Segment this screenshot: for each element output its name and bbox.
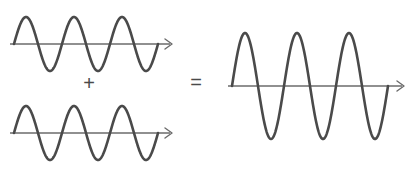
interference-diagram: + = xyxy=(0,0,416,169)
equals-operator-symbol: = xyxy=(190,71,202,93)
plus-operator-symbol: + xyxy=(83,72,95,94)
wave-group-input-wave-top xyxy=(10,17,172,71)
wave-figure-svg: + = xyxy=(0,0,416,169)
wave-group-input-wave-bottom xyxy=(10,106,172,160)
wave-group-resultant-wave xyxy=(228,33,404,139)
